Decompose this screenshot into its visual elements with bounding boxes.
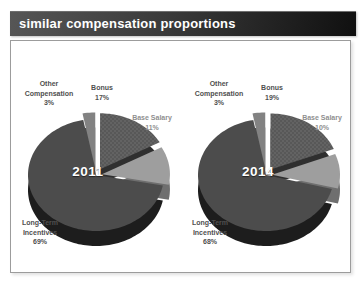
slide: similar compensation proportions Other C… — [0, 0, 361, 284]
label-bonus: Bonus 17% — [74, 83, 130, 102]
slice-label: Bonus — [244, 83, 300, 93]
slice-percent: 69% — [12, 237, 68, 247]
slice-percent: 3% — [16, 98, 82, 108]
slice-label: Bonus — [74, 83, 130, 93]
slice-label: Base Salary — [288, 113, 356, 123]
slice-percent: 19% — [244, 93, 300, 103]
slice-percent: 10% — [288, 123, 356, 133]
label-long-term-incentives: Long-Term Incentives 68% — [182, 218, 238, 247]
slice-label: Long-Term Incentives — [12, 218, 68, 237]
label-base-salary: Base Salary 11% — [118, 113, 186, 132]
slide-title: similar compensation proportions — [10, 12, 356, 36]
label-other-compensation: Other Compensation 3% — [186, 79, 252, 108]
chart-2011-group: Other Compensation 3% Bonus 17% Base Sal… — [12, 40, 182, 272]
label-other-compensation: Other Compensation 3% — [16, 79, 82, 108]
year-label: 2014 — [222, 164, 294, 179]
slice-label: Other Compensation — [186, 79, 252, 98]
slice-label: Other Compensation — [16, 79, 82, 98]
label-long-term-incentives: Long-Term Incentives 69% — [12, 218, 68, 247]
slice-percent: 68% — [182, 237, 238, 247]
slide-title-bar: similar compensation proportions — [10, 11, 356, 36]
slice-percent: 17% — [74, 93, 130, 103]
chart-2014-group: Other Compensation 3% Bonus 19% Base Sal… — [182, 40, 352, 272]
label-base-salary: Base Salary 10% — [288, 113, 356, 132]
year-label: 2011 — [52, 164, 124, 179]
slice-label: Long-Term Incentives — [182, 218, 238, 237]
slice-label: Base Salary — [118, 113, 186, 123]
slice-percent: 3% — [186, 98, 252, 108]
slice-percent: 11% — [118, 123, 186, 133]
label-bonus: Bonus 19% — [244, 83, 300, 102]
